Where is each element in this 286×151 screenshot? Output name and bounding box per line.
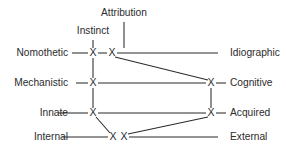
node-attribution: X [108,46,115,58]
node-internal-b: X [120,130,127,142]
axis-label-row-mechanistic-cognitive-left: Mechanistic [14,77,68,88]
axis-label-row-internal-external-left: Internal [34,131,68,142]
edge-diag-acquired-internal [128,117,208,134]
labels-layer: NomotheticIdiographicMechanisticCognitiv… [14,7,280,142]
node-internal-a: X [109,130,116,142]
axis-label-row-innate-acquired-right: Acquired [230,107,271,118]
axis-label-row-nomothetic-idiographic-right: Idiographic [230,47,280,58]
node-mechanistic: X [89,76,96,88]
node-instinct: X [89,46,96,58]
edge-diag-innate-internal [96,117,110,133]
diagram-root: XXXXXXXX NomotheticIdiographicMechanisti… [0,0,286,151]
nodes-layer: XXXXXXXX [89,46,214,142]
axis-label-row-innate-acquired-left: Innate [40,107,69,118]
label-attribution: Attribution [101,7,147,18]
axis-label-row-nomothetic-idiographic-left: Nomothetic [16,47,68,58]
dimensions-diagram: XXXXXXXX NomotheticIdiographicMechanisti… [0,0,286,151]
edges-layer [58,22,226,137]
axis-label-row-internal-external-right: External [230,131,267,142]
node-acquired: X [207,106,214,118]
label-instinct: Instinct [77,25,109,36]
edge-diag-attribution-cognitive [115,57,208,80]
node-cognitive: X [207,76,214,88]
axis-label-row-mechanistic-cognitive-right: Cognitive [230,77,273,88]
node-innate: X [89,106,96,118]
